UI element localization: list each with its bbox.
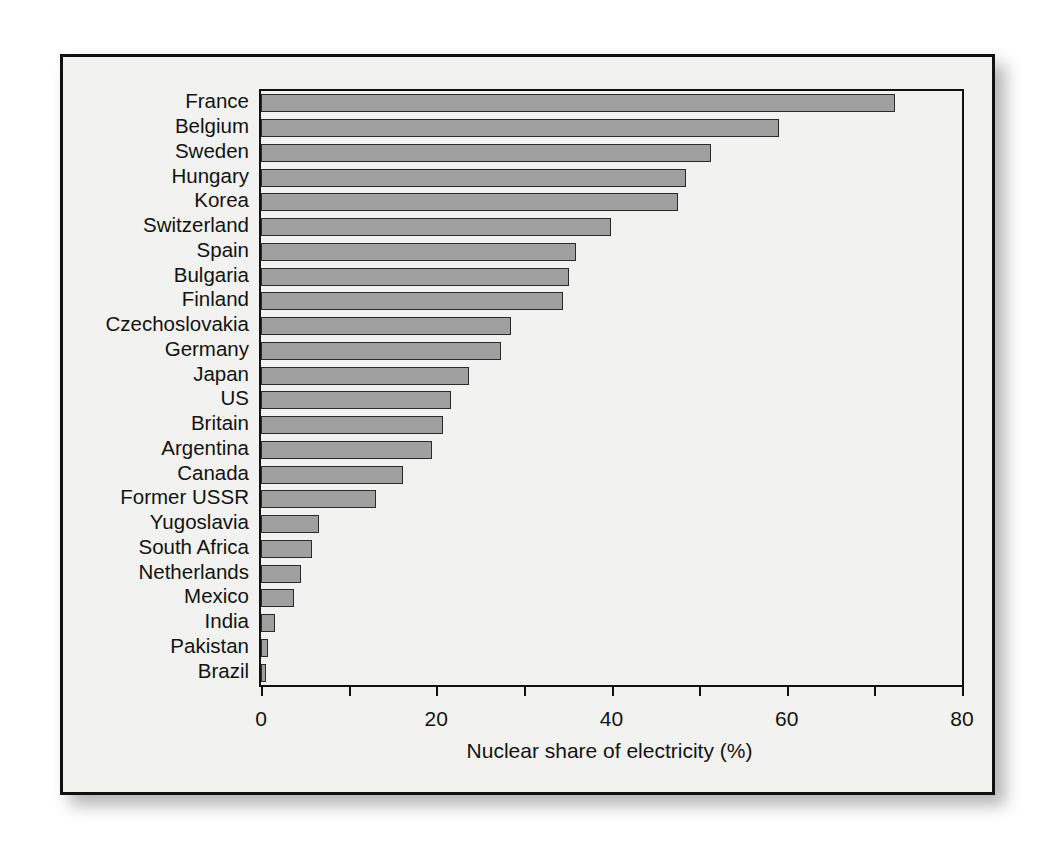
x-tick-major [261,685,263,696]
category-axis-labels: FranceBelgiumSwedenHungaryKoreaSwitzerla… [63,89,249,683]
x-tick-minor [874,685,876,696]
bar [261,515,319,533]
bar [261,540,312,558]
category-label: Netherlands [138,562,249,583]
category-label: Pakistan [170,636,249,657]
bar-row [261,218,962,236]
category-label: Spain [197,240,249,261]
bar-row [261,169,962,187]
bar-row [261,391,962,409]
figure-frame: FranceBelgiumSwedenHungaryKoreaSwitzerla… [60,54,995,795]
bar-row [261,416,962,434]
category-label: Britain [191,413,249,434]
category-label: Former USSR [120,487,249,508]
x-tick-major [436,685,438,696]
x-tick-minor [699,685,701,696]
bar-row [261,565,962,583]
bar [261,416,443,434]
x-tick-minor [524,685,526,696]
bar-row [261,268,962,286]
bar [261,490,376,508]
x-tick-label: 60 [775,707,798,731]
bar [261,614,275,632]
bar-row [261,490,962,508]
bar-row [261,639,962,657]
bar-row [261,119,962,137]
x-axis-title: Nuclear share of electricity (%) [259,739,960,763]
bar [261,466,403,484]
bar [261,292,563,310]
category-label: Sweden [175,141,249,162]
category-label: Canada [177,463,249,484]
x-tick-label: 80 [950,707,973,731]
bar-row [261,193,962,211]
bar-row [261,342,962,360]
category-label: India [205,611,249,632]
bar-row [261,466,962,484]
bar [261,342,501,360]
bar [261,243,576,261]
x-tick-label: 40 [600,707,623,731]
category-label: Korea [194,190,249,211]
bar-row [261,441,962,459]
bar [261,664,266,682]
plot-area: 020406080 [259,89,964,687]
category-label: Hungary [172,166,250,187]
category-label: Argentina [161,438,249,459]
bar [261,441,432,459]
x-tick-major [612,685,614,696]
bar-row [261,614,962,632]
bar [261,391,451,409]
bar-row [261,317,962,335]
category-label: Czechoslovakia [105,314,249,335]
x-tick-major [962,685,964,696]
bar [261,589,294,607]
bar-row [261,589,962,607]
category-label: Germany [165,339,249,360]
bar [261,218,611,236]
bar [261,268,569,286]
bar [261,639,268,657]
bar-row [261,367,962,385]
bar-chart: FranceBelgiumSwedenHungaryKoreaSwitzerla… [63,57,992,792]
x-tick-label: 20 [425,707,448,731]
category-label: Finland [182,289,249,310]
bar-row [261,144,962,162]
category-label: Bulgaria [174,265,249,286]
bar [261,94,895,112]
bar [261,367,469,385]
category-label: France [185,91,249,112]
bar-row [261,243,962,261]
category-label: Mexico [184,586,249,607]
category-label: South Africa [138,537,249,558]
bar-row [261,292,962,310]
bar [261,119,779,137]
category-label: Belgium [175,116,249,137]
x-tick-major [787,685,789,696]
bar [261,144,711,162]
bar-row [261,94,962,112]
x-tick-minor [349,685,351,696]
bar [261,169,686,187]
x-tick-label: 0 [255,707,267,731]
bar-row [261,515,962,533]
bar [261,317,511,335]
bar [261,565,301,583]
category-label: US [221,388,249,409]
bar-row [261,664,962,682]
bar [261,193,678,211]
category-label: Switzerland [143,215,249,236]
category-label: Yugoslavia [150,512,249,533]
bar-row [261,540,962,558]
category-label: Japan [193,364,249,385]
category-label: Brazil [198,661,249,682]
